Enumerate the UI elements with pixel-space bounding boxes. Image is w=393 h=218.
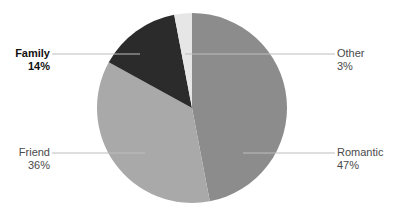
- label-other-pct: 3%: [337, 60, 365, 73]
- pie-slice-romantic: [192, 13, 287, 201]
- label-other-name: Other: [337, 47, 365, 60]
- label-romantic-name: Romantic: [337, 146, 383, 159]
- pie-chart: [0, 0, 393, 218]
- label-family-pct: 14%: [15, 60, 50, 73]
- label-friend: Friend 36%: [19, 146, 50, 172]
- label-other: Other 3%: [337, 47, 365, 73]
- label-romantic-pct: 47%: [337, 159, 383, 172]
- label-friend-pct: 36%: [19, 159, 50, 172]
- label-family-name: Family: [15, 47, 50, 60]
- label-romantic: Romantic 47%: [337, 146, 383, 172]
- label-friend-name: Friend: [19, 146, 50, 159]
- label-family: Family 14%: [15, 47, 50, 73]
- pie-slices: [97, 13, 287, 203]
